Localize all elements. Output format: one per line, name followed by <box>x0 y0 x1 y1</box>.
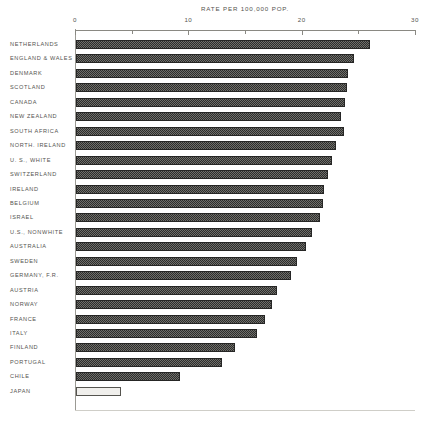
bar-row: SOUTH AFRICA <box>0 125 432 139</box>
bar-category-label: BELGIUM <box>10 200 72 207</box>
bar-category-label: PORTUGAL <box>10 359 72 366</box>
bar <box>76 286 277 295</box>
bar-category-label: SWEDEN <box>10 258 72 265</box>
bar <box>76 372 180 381</box>
bar-row: SCOTLAND <box>0 82 432 96</box>
bar <box>76 185 324 194</box>
bar-row: ITALY <box>0 328 432 342</box>
bar-row: SWITZERLAND <box>0 169 432 183</box>
bar-category-label: NEW ZEALAND <box>10 113 72 120</box>
bar <box>76 69 348 78</box>
bar <box>76 156 332 165</box>
bar <box>76 329 257 338</box>
bar-row: GERMANY, F.R. <box>0 270 432 284</box>
bar <box>76 271 291 280</box>
bar <box>76 112 341 121</box>
bar-row: ISRAEL <box>0 212 432 226</box>
bar-category-label: DENMARK <box>10 70 72 77</box>
bar-category-label: ISRAEL <box>10 214 72 221</box>
bar <box>76 40 370 49</box>
bar-category-label: ITALY <box>10 330 72 337</box>
bar <box>76 387 121 396</box>
bar-row: DENMARK <box>0 67 432 81</box>
bar <box>76 242 306 251</box>
bar-category-label: CHILE <box>10 373 72 380</box>
bar-rows: NETHERLANDSENGLAND & WALESDENMARKSCOTLAN… <box>0 0 432 422</box>
bar-row: NETHERLANDS <box>0 39 432 53</box>
bar-category-label: AUSTRALIA <box>10 243 72 250</box>
bar <box>76 315 265 324</box>
bar-row: NEW ZEALAND <box>0 111 432 125</box>
bar-category-label: NORTH. IRELAND <box>10 142 72 149</box>
bar <box>76 343 235 352</box>
bar <box>76 300 272 309</box>
bar-row: FINLAND <box>0 342 432 356</box>
bar-row: FRANCE <box>0 313 432 327</box>
bar-category-label: SCOTLAND <box>10 84 72 91</box>
bar <box>76 358 222 367</box>
bar-row: PORTUGAL <box>0 356 432 370</box>
bar-category-label: SWITZERLAND <box>10 171 72 178</box>
bar-row: IRELAND <box>0 183 432 197</box>
bar <box>76 257 297 266</box>
bar <box>76 83 347 92</box>
bar <box>76 199 323 208</box>
bar <box>76 170 328 179</box>
bar-category-label: ENGLAND & WALES <box>10 55 72 62</box>
bar-row: NORWAY <box>0 299 432 313</box>
bar-row: SWEDEN <box>0 255 432 269</box>
bar-category-label: JAPAN <box>10 388 72 395</box>
bar <box>76 141 336 150</box>
bar-row: ENGLAND & WALES <box>0 53 432 67</box>
bar-category-label: NORWAY <box>10 301 72 308</box>
bar-row: JAPAN <box>0 385 432 399</box>
bar-row: U.S., NONWHITE <box>0 226 432 240</box>
bar-row: NORTH. IRELAND <box>0 140 432 154</box>
bar <box>76 54 354 63</box>
bar-row: AUSTRIA <box>0 284 432 298</box>
bar-category-label: NETHERLANDS <box>10 41 72 48</box>
bar-category-label: GERMANY, F.R. <box>10 272 72 279</box>
bar <box>76 228 312 237</box>
bar <box>76 213 320 222</box>
bar-category-label: IRELAND <box>10 186 72 193</box>
bar-category-label: U.S., NONWHITE <box>10 229 72 236</box>
bar-category-label: SOUTH AFRICA <box>10 128 72 135</box>
bar-row: AUSTRALIA <box>0 241 432 255</box>
bar-category-label: AUSTRIA <box>10 287 72 294</box>
bar-row: CHILE <box>0 371 432 385</box>
bar-category-label: CANADA <box>10 99 72 106</box>
bar <box>76 127 344 136</box>
bar-row: U. S., WHITE <box>0 154 432 168</box>
bar-category-label: U. S., WHITE <box>10 157 72 164</box>
bar <box>76 98 345 107</box>
bar-category-label: FINLAND <box>10 344 72 351</box>
bar-row: BELGIUM <box>0 197 432 211</box>
bar-category-label: FRANCE <box>10 316 72 323</box>
bar-row: CANADA <box>0 96 432 110</box>
bar-chart: RATE PER 100,000 POP. 0102030 NETHERLAND… <box>0 0 432 422</box>
